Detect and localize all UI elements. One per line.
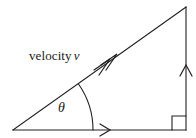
angle-theta-label: θ bbox=[58, 101, 65, 115]
velocity-label: velocityv bbox=[29, 49, 80, 62]
triangle-diagram-svg bbox=[0, 0, 196, 138]
velocity-label-symbol: v bbox=[72, 48, 80, 63]
right-angle-marker-icon bbox=[172, 116, 186, 130]
velocity-triangle-figure: velocityv θ bbox=[0, 0, 196, 138]
velocity-label-word: velocity bbox=[29, 48, 72, 63]
triangle-hypotenuse-line bbox=[13, 7, 186, 130]
angle-arc-icon bbox=[79, 84, 94, 130]
